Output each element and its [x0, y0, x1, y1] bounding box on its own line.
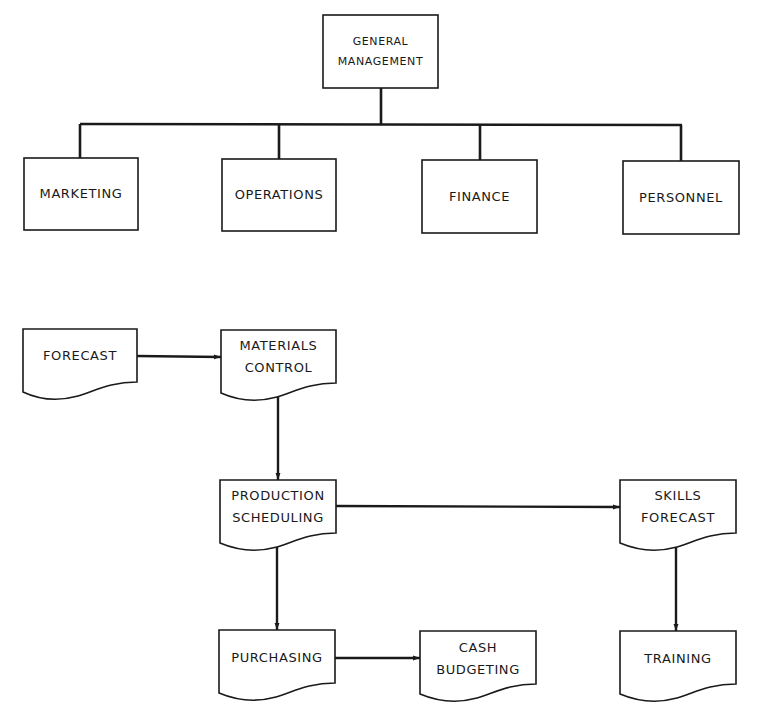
flow-node-production-scheduling: PRODUCTION SCHEDULING	[220, 480, 336, 534]
flow-arrow-production-scheduling-to-skills-forecast	[336, 506, 620, 507]
flow-node-label-line: FORECAST	[641, 507, 715, 529]
flow-node-label: FORECAST	[43, 345, 117, 367]
org-node-label: FINANCE	[449, 186, 510, 208]
flow-node-label-line: SCHEDULING	[232, 507, 324, 529]
org-node-general-management: GENERAL MANAGEMENT	[323, 15, 438, 88]
org-node-label: OPERATIONS	[235, 184, 324, 206]
flow-node-label-line: SKILLS	[655, 485, 702, 507]
flow-node-cash-budgeting: CASH BUDGETING	[420, 631, 536, 687]
flow-node-materials-control: MATERIALS CONTROL	[221, 330, 336, 384]
flow-node-label: TRAINING	[644, 648, 711, 670]
flow-node-label-line: BUDGETING	[436, 659, 520, 681]
flow-node-purchasing: PURCHASING	[219, 630, 335, 686]
org-node-label-line: MANAGEMENT	[338, 52, 423, 72]
flow-node-skills-forecast: SKILLS FORECAST	[620, 480, 736, 534]
org-node-operations: OPERATIONS	[222, 159, 336, 231]
flow-node-label-line: MATERIALS	[240, 335, 318, 357]
org-node-finance: FINANCE	[422, 160, 537, 233]
flow-node-forecast: FORECAST	[23, 329, 137, 383]
flow-node-label-line: PRODUCTION	[231, 485, 324, 507]
flow-arrow-forecast-to-materials-control	[137, 356, 221, 357]
flow-node-label: PURCHASING	[231, 647, 322, 669]
flow-node-label-line: CASH	[459, 637, 497, 659]
org-node-label: MARKETING	[40, 183, 123, 205]
flow-node-label-line: CONTROL	[245, 357, 313, 379]
org-node-label-line: GENERAL	[353, 32, 409, 52]
org-node-personnel: PERSONNEL	[623, 161, 739, 234]
flow-node-training: TRAINING	[620, 631, 736, 687]
org-connector-bar	[80, 124, 682, 125]
org-node-label: PERSONNEL	[639, 187, 723, 209]
org-node-marketing: MARKETING	[24, 158, 138, 230]
